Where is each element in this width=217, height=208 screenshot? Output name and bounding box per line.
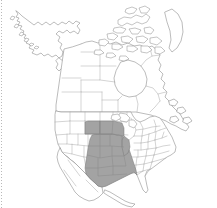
north-america-map-svg: [0, 0, 217, 208]
shaded-range-north-polygon: [85, 121, 100, 134]
distribution-map-figure: North America distribution map: [0, 0, 217, 208]
